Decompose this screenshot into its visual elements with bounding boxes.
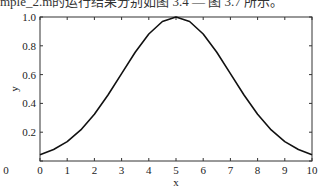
y-tick-label: 1.0	[22, 11, 36, 23]
x-tick-label: 10	[307, 164, 319, 176]
x-tick-label: 8	[255, 164, 261, 176]
y-tick-label: 0.8	[22, 40, 36, 52]
x-tick-label: 3	[119, 164, 125, 176]
y-tick-label: 0.6	[22, 69, 36, 81]
x-tick-label: 6	[200, 164, 206, 176]
plot-frame	[40, 17, 312, 161]
x-tick-label: 4	[146, 164, 152, 176]
x-tick-label: 2	[92, 164, 98, 176]
y-tick-label: 0.4	[22, 97, 36, 109]
y-tick-label-zero: 0	[3, 164, 9, 176]
line-chart: 0123456789100.20.40.60.81.00xy	[0, 0, 321, 189]
y-tick-label: 0.2	[22, 126, 36, 138]
data-line	[40, 17, 312, 155]
x-tick-label: 1	[64, 164, 70, 176]
x-tick-label: 0	[37, 164, 43, 176]
y-axis-label: y	[8, 86, 20, 92]
x-tick-label: 7	[228, 164, 234, 176]
x-tick-label: 5	[173, 164, 179, 176]
x-axis-label: x	[173, 176, 179, 188]
x-tick-label: 9	[282, 164, 288, 176]
